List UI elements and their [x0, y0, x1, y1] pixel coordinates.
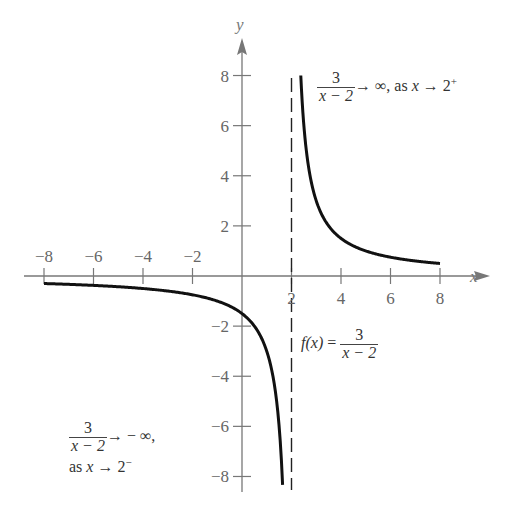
y-tick-label: 8: [221, 67, 230, 86]
y-tick-label: −2: [211, 317, 229, 336]
x-axis-label: x: [469, 267, 478, 286]
y-tick-label: −8: [211, 467, 229, 486]
annotation-function: f(x) = 3 x − 2: [301, 327, 378, 362]
y-axis-label: y: [234, 15, 244, 34]
annotation-left-limit: 3 x − 2 → − ∞, as x → 2−: [69, 420, 155, 476]
x-tick-label: 4: [337, 289, 346, 308]
x-tick-label: −8: [35, 247, 53, 266]
fraction: 3 x − 2: [69, 420, 107, 455]
y-tick-label: −4: [211, 367, 230, 386]
x-tick-label: −2: [183, 247, 201, 266]
x-tick-label: −4: [134, 247, 153, 266]
x-tick-label: 8: [436, 289, 445, 308]
fraction: 3 x − 2: [340, 327, 378, 362]
y-tick-label: −6: [211, 417, 229, 436]
x-tick-label: −6: [84, 247, 102, 266]
annotation-right-limit: 3 x − 2 → ∞, as x → 2+: [317, 70, 457, 105]
fraction: 3 x − 2: [317, 70, 355, 105]
x-tick-label: 2: [287, 289, 296, 308]
x-tick-label: 6: [386, 289, 395, 308]
y-tick-label: 4: [221, 167, 230, 186]
y-tick-label: 6: [221, 117, 230, 136]
y-tick-label: 2: [221, 217, 230, 236]
